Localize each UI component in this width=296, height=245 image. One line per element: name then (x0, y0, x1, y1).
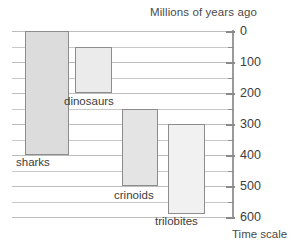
y-axis-minor-tick (228, 171, 234, 173)
bar-label-dinosaurs: dinosaurs (64, 96, 114, 108)
bar-label-trilobites: trilobites (155, 216, 198, 228)
chart-title: Millions of years ago (150, 6, 296, 18)
y-axis-tick (226, 31, 235, 33)
bar-label-crinoids: crinoids (114, 190, 154, 202)
y-axis-tick-label: 300 (240, 118, 261, 131)
y-axis-tick-label: 500 (240, 180, 261, 193)
bar-label-sharks: sharks (16, 157, 50, 169)
y-axis-tick (226, 62, 235, 64)
y-axis-minor-tick (228, 109, 234, 111)
y-axis-tick-label: 0 (240, 25, 247, 38)
y-axis-tick (226, 93, 235, 95)
y-axis-tick-label: 100 (240, 56, 261, 69)
bar-crinoids (122, 109, 158, 187)
y-axis-minor-tick (228, 78, 234, 80)
y-axis-minor-tick (228, 140, 234, 142)
bar-sharks (25, 31, 69, 155)
y-axis-tick (226, 217, 235, 219)
bar-trilobites (168, 124, 205, 214)
y-axis-tick-label: 200 (240, 87, 261, 100)
y-axis-tick-label: 600 (240, 211, 261, 224)
y-axis-tick (226, 155, 235, 157)
y-axis-tick-label: 400 (240, 149, 261, 162)
y-axis-tick (226, 124, 235, 126)
y-axis-minor-tick (228, 47, 234, 49)
time-scale-chart: Millions of years ago 010020030040050060… (0, 0, 296, 245)
y-axis-tick (226, 186, 235, 188)
axis-caption: Time scale (232, 228, 287, 240)
y-axis-minor-tick (228, 202, 234, 204)
bar-dinosaurs (75, 47, 112, 94)
gridline (12, 217, 232, 218)
